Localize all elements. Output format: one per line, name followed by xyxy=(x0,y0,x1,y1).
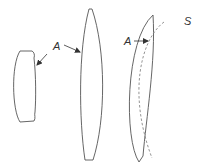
biconvex-lens xyxy=(81,9,103,160)
small-lens xyxy=(14,51,36,122)
lens-diagram: A A S xyxy=(0,0,204,167)
label-a-right: A xyxy=(123,35,131,47)
label-a-left: A xyxy=(52,40,60,52)
arrow-a-left-biconvex xyxy=(64,45,80,52)
meniscus-lens xyxy=(129,15,153,162)
arrow-a-left-small xyxy=(37,54,47,65)
reference-sphere xyxy=(139,22,164,158)
label-s: S xyxy=(184,15,192,27)
